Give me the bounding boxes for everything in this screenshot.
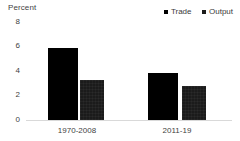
bar-chart: Percent Trade Output 8 6 4 2 0 1970-2008… [0, 0, 240, 141]
chart-legend: Trade Output [164, 8, 233, 16]
legend-swatch-output [202, 10, 206, 14]
bar-trade-2011-19[interactable] [148, 73, 178, 120]
y-tick-8: 8 [0, 18, 20, 26]
legend-swatch-trade [164, 10, 168, 14]
bar-trade-1970-2008[interactable] [48, 48, 78, 120]
x-category-label-1: 1970-2008 [58, 126, 96, 135]
legend-label-output: Output [209, 8, 233, 16]
bar-output-1970-2008[interactable] [80, 80, 104, 120]
y-tick-6: 6 [0, 42, 20, 50]
plot-area [26, 22, 232, 120]
y-axis-title: Percent [8, 3, 36, 12]
x-axis-baseline [26, 120, 232, 121]
legend-item-trade[interactable]: Trade [164, 8, 191, 16]
y-tick-4: 4 [0, 67, 20, 75]
bar-output-2011-19[interactable] [182, 86, 206, 120]
y-tick-0: 0 [0, 116, 20, 124]
legend-item-output[interactable]: Output [202, 8, 233, 16]
x-category-label-2: 2011-19 [163, 126, 192, 135]
legend-label-trade: Trade [171, 8, 192, 16]
y-tick-2: 2 [0, 91, 20, 99]
